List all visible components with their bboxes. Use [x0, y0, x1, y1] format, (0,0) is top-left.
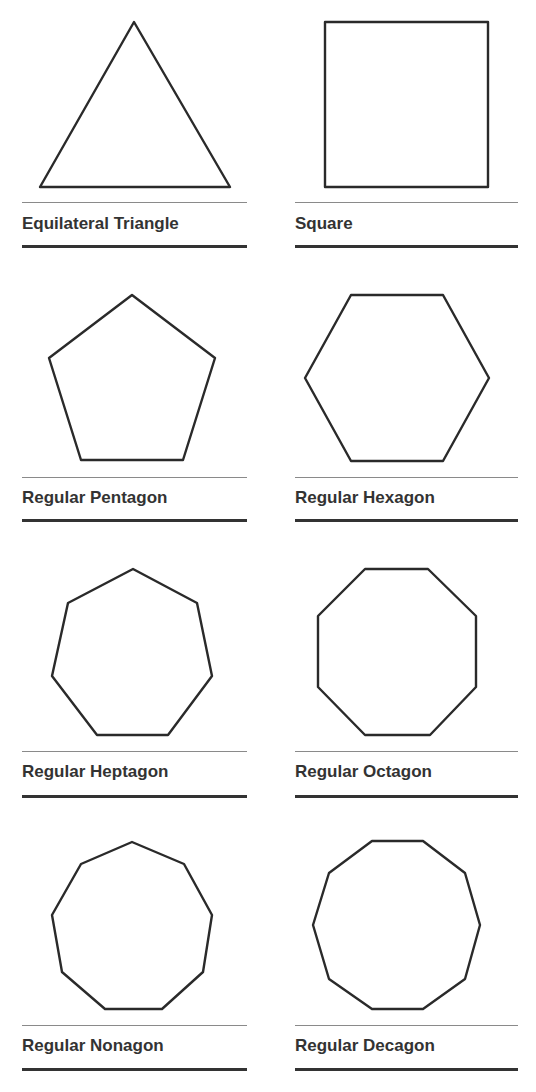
divider-thick: [295, 795, 518, 798]
nonagon-shape: [52, 842, 212, 1009]
divider-thin: [22, 1025, 247, 1026]
divider-thick: [22, 519, 247, 522]
label-square: Square: [295, 214, 353, 234]
octagon-shape: [318, 569, 476, 735]
divider-thick: [295, 519, 518, 522]
divider-thin: [22, 202, 247, 203]
divider-thick: [22, 795, 247, 798]
divider-thin: [22, 751, 247, 752]
divider-thin: [22, 477, 247, 478]
divider-thin: [295, 1025, 518, 1026]
heptagon-shape: [52, 569, 212, 735]
label-equilateral-triangle: Equilateral Triangle: [22, 214, 179, 234]
label-regular-octagon: Regular Octagon: [295, 762, 432, 782]
divider-thick: [22, 1068, 247, 1071]
divider-thick: [295, 245, 518, 248]
decagon-shape: [313, 841, 480, 1009]
divider-thin: [295, 202, 518, 203]
divider-thin: [295, 477, 518, 478]
hexagon-shape: [305, 295, 489, 461]
pentagon-shape: [49, 295, 215, 460]
divider-thick: [22, 245, 247, 248]
label-regular-pentagon: Regular Pentagon: [22, 488, 167, 508]
label-regular-hexagon: Regular Hexagon: [295, 488, 435, 508]
divider-thick: [295, 1068, 518, 1071]
equilateral-triangle-shape: [40, 22, 230, 187]
divider-thin: [295, 751, 518, 752]
polygons-canvas: [0, 0, 536, 1092]
label-regular-nonagon: Regular Nonagon: [22, 1036, 164, 1056]
label-regular-heptagon: Regular Heptagon: [22, 762, 168, 782]
square-shape: [325, 22, 488, 187]
label-regular-decagon: Regular Decagon: [295, 1036, 435, 1056]
